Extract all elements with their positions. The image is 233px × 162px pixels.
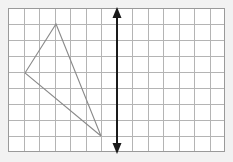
figure-canvas	[0, 0, 233, 162]
geometry-figure	[0, 0, 233, 162]
